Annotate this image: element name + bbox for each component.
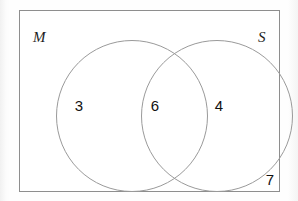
region-count-intersection: 6 bbox=[148, 98, 162, 113]
region-count-m-only: 3 bbox=[72, 98, 86, 113]
region-count-s-only: 4 bbox=[212, 98, 226, 113]
set-circle-s bbox=[141, 40, 293, 192]
venn-diagram-canvas: M S 3 6 4 7 bbox=[0, 0, 298, 201]
set-label-m: M bbox=[33, 30, 46, 45]
region-count-outside: 7 bbox=[263, 172, 277, 187]
set-label-s: S bbox=[258, 30, 266, 45]
